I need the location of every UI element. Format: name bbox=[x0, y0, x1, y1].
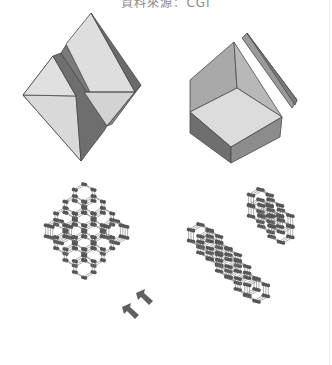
arrow-icon bbox=[136, 289, 153, 305]
lattice-left bbox=[44, 182, 130, 280]
lattice-right bbox=[187, 187, 295, 304]
cleaved-crystal-right bbox=[190, 33, 297, 163]
cleaved-crystal-left bbox=[23, 13, 141, 161]
arrow-icon bbox=[122, 303, 139, 319]
crystal-figure bbox=[0, 0, 332, 365]
cleavage-arrows bbox=[122, 289, 153, 319]
